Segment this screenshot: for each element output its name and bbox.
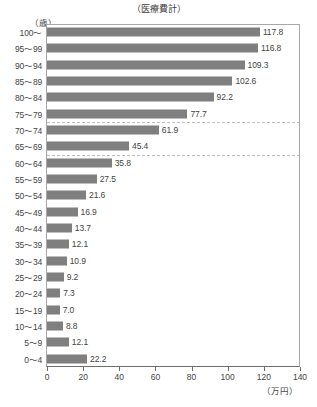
bar-value-label: 9.2	[67, 272, 79, 282]
bar	[47, 322, 63, 331]
category-label: 35～39	[0, 238, 42, 250]
x-axis-tick-mark	[47, 367, 48, 371]
x-axis-tick-mark	[228, 367, 229, 371]
bar	[47, 207, 78, 216]
bar	[47, 191, 86, 200]
category-label: 40～44	[0, 222, 42, 234]
x-axis-tick-mark	[264, 367, 265, 371]
dashed-separator-line	[47, 155, 300, 156]
bar-value-label: 12.1	[72, 337, 88, 347]
bar-value-label: 45.4	[132, 141, 148, 151]
bar	[47, 354, 87, 363]
category-label: 65～69	[0, 140, 42, 152]
category-label: 100～	[0, 26, 42, 38]
bar-row: 75～7977.7	[0, 106, 317, 122]
bar-value-label: 61.9	[162, 125, 178, 135]
bar-value-label: 21.6	[89, 190, 105, 200]
bar	[47, 44, 258, 53]
bar-value-label: 22.2	[90, 354, 106, 364]
bar-value-label: 77.7	[190, 109, 206, 119]
bar-row: 100～117.8	[0, 24, 317, 40]
x-axis-tick-mark	[192, 367, 193, 371]
bar-value-label: 116.8	[261, 43, 281, 53]
bar	[47, 273, 64, 282]
bar-row: 80～8492.2	[0, 89, 317, 105]
category-label: 90～94	[0, 59, 42, 71]
category-label: 30～34	[0, 255, 42, 267]
category-label: 75～79	[0, 108, 42, 120]
x-axis-tick-label: 40	[115, 372, 124, 382]
medical-expense-bar-chart: （医療費計） （歳） 100～117.895～99116.890～94109.3…	[0, 0, 317, 407]
bar-row: 15～197.0	[0, 302, 317, 318]
bar	[47, 60, 245, 69]
x-axis-tick-label: 120	[257, 372, 271, 382]
category-label: 25～29	[0, 271, 42, 283]
bar	[47, 142, 129, 151]
bar-row: 70～7461.9	[0, 122, 317, 138]
bar-value-label: 12.1	[72, 239, 88, 249]
bar-value-label: 35.8	[115, 158, 131, 168]
dashed-separator-line	[47, 122, 300, 123]
bar	[47, 126, 159, 135]
bar-row: 25～299.2	[0, 269, 317, 285]
bar-row: 65～6945.4	[0, 138, 317, 154]
x-axis-tick-label: 60	[151, 372, 160, 382]
x-axis-tick-mark	[155, 367, 156, 371]
bar-row: 30～3410.9	[0, 253, 317, 269]
category-label: 60～64	[0, 157, 42, 169]
bar	[47, 158, 112, 167]
x-axis-tick-label: 80	[187, 372, 196, 382]
bar	[47, 256, 67, 265]
bar-value-label: 117.8	[263, 27, 283, 37]
bar	[47, 109, 187, 118]
bar	[47, 28, 260, 37]
bar-row: 85～89102.6	[0, 73, 317, 89]
bar-value-label: 92.2	[217, 92, 233, 102]
chart-title: （医療費計）	[0, 2, 317, 15]
bar-row: 40～4413.7	[0, 220, 317, 236]
bar-row: 5～912.1	[0, 334, 317, 350]
x-axis-tick-label: 100	[221, 372, 235, 382]
x-axis-tick-mark	[119, 367, 120, 371]
bar-value-label: 109.3	[248, 60, 269, 70]
x-axis-tick-label: 0	[45, 372, 50, 382]
category-label: 20～24	[0, 287, 42, 299]
bar-row: 35～3912.1	[0, 236, 317, 252]
bar-value-label: 27.5	[100, 174, 116, 184]
bar	[47, 93, 214, 102]
bar-row: 10～148.8	[0, 318, 317, 334]
bar-row: 55～5927.5	[0, 171, 317, 187]
bar-value-label: 102.6	[235, 76, 256, 86]
category-label: 95～99	[0, 42, 42, 54]
x-axis-tick-mark	[83, 367, 84, 371]
bar-row: 60～6435.8	[0, 155, 317, 171]
bar-row: 45～4916.9	[0, 204, 317, 220]
bar	[47, 77, 232, 86]
bar	[47, 240, 69, 249]
bar-value-label: 7.3	[63, 288, 75, 298]
bar	[47, 338, 69, 347]
category-label: 5～9	[0, 336, 42, 348]
category-label: 70～74	[0, 124, 42, 136]
bar	[47, 289, 60, 298]
category-label: 10～14	[0, 320, 42, 332]
category-label: 45～49	[0, 206, 42, 218]
x-axis-tick-label: 20	[78, 372, 87, 382]
bar-value-label: 8.8	[66, 321, 78, 331]
bar	[47, 305, 60, 314]
bar-value-label: 13.7	[75, 223, 91, 233]
bar-row: 90～94109.3	[0, 57, 317, 73]
category-label: 50～54	[0, 189, 42, 201]
bar	[47, 224, 72, 233]
category-label: 85～89	[0, 75, 42, 87]
bar-row: 0～422.2	[0, 351, 317, 367]
bar-row: 95～99116.8	[0, 40, 317, 56]
bar-value-label: 16.9	[81, 207, 97, 217]
category-label: 55～59	[0, 173, 42, 185]
x-axis-tick-mark	[300, 367, 301, 371]
category-label: 80～84	[0, 91, 42, 103]
x-axis-tick-label: 140	[293, 372, 307, 382]
bar-rows-container: 100～117.895～99116.890～94109.385～89102.68…	[0, 24, 317, 367]
bar-row: 20～247.3	[0, 285, 317, 301]
bar-row: 50～5421.6	[0, 187, 317, 203]
